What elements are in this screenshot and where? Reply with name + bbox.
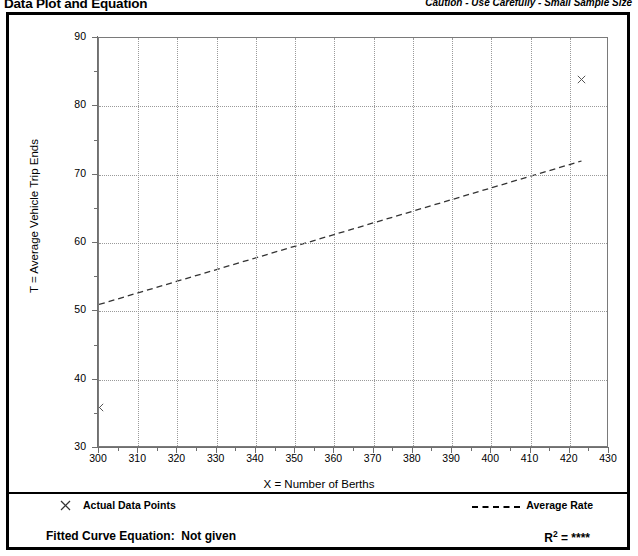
x-tick-label: 420 (549, 452, 589, 464)
x-tick-minor (275, 447, 276, 451)
x-tick-minor (588, 447, 589, 451)
y-tick-label: 80 (56, 98, 86, 110)
r2-exponent: 2 (553, 529, 558, 539)
x-tick-label: 380 (392, 452, 432, 464)
x-tick-label: 410 (510, 452, 550, 464)
y-tick-major (92, 310, 98, 311)
x-tick-minor (157, 447, 158, 451)
grid-line-horizontal (99, 311, 607, 312)
y-tick-major (92, 37, 98, 38)
equation-value: Not given (181, 529, 236, 543)
plot-inner (99, 38, 607, 446)
legend-label-points: Actual Data Points (83, 499, 176, 511)
legend-divider (6, 492, 630, 494)
r2-label: R (544, 531, 553, 545)
grid-line-vertical (177, 38, 178, 446)
grid-line-vertical (570, 38, 571, 446)
grid-line-vertical (256, 38, 257, 446)
x-marker-icon (60, 500, 71, 511)
x-tick-label: 370 (353, 452, 393, 464)
page-title: Data Plot and Equation (4, 0, 147, 11)
x-tick-label: 320 (156, 452, 196, 464)
x-tick-label: 300 (78, 452, 118, 464)
x-tick-minor (353, 447, 354, 451)
x-tick-label: 350 (274, 452, 314, 464)
figure-panel: Data Plot and Equation Caution - Use Car… (0, 0, 638, 556)
x-tick-minor (314, 447, 315, 451)
plot-area (98, 37, 608, 447)
y-tick-label: 50 (56, 303, 86, 315)
x-tick-minor (196, 447, 197, 451)
grid-line-vertical (452, 38, 453, 446)
grid-line-horizontal (99, 175, 607, 176)
legend-label-line: Average Rate (526, 499, 593, 511)
y-tick-major (92, 379, 98, 380)
dashed-line-icon (472, 506, 520, 508)
fitted-curve-equation: Fitted Curve Equation: Not given (46, 529, 236, 543)
grid-line-vertical (217, 38, 218, 446)
grid-line-horizontal (99, 106, 607, 107)
y-axis-title: T = Average Vehicle Trip Ends (28, 16, 40, 416)
y-tick-label: 70 (56, 167, 86, 179)
x-tick-minor (549, 447, 550, 451)
y-tick-label: 30 (56, 440, 86, 452)
y-tick-label: 90 (56, 30, 86, 42)
x-tick-label: 390 (431, 452, 471, 464)
grid-line-vertical (413, 38, 414, 446)
y-tick-major (92, 174, 98, 175)
data-point-x-icon (577, 75, 586, 84)
x-tick-minor (471, 447, 472, 451)
data-point-x-icon (99, 403, 104, 412)
y-tick-minor (94, 208, 98, 209)
x-tick-minor (392, 447, 393, 451)
r2-equals: = **** (561, 531, 590, 545)
y-tick-minor (94, 345, 98, 346)
grid-line-vertical (138, 38, 139, 446)
x-tick-label: 310 (117, 452, 157, 464)
equation-label: Fitted Curve Equation: (46, 529, 175, 543)
y-tick-minor (94, 71, 98, 72)
x-tick-minor (235, 447, 236, 451)
chart-legend: Actual Data Points Average Rate (0, 498, 638, 520)
y-tick-label: 40 (56, 372, 86, 384)
x-tick-label: 340 (235, 452, 275, 464)
y-tick-major (92, 105, 98, 106)
y-tick-major (92, 242, 98, 243)
grid-line-vertical (374, 38, 375, 446)
x-tick-minor (118, 447, 119, 451)
trend-line-segment (99, 161, 582, 305)
caution-note: Caution - Use Carefully - Small Sample S… (425, 0, 632, 8)
x-tick-label: 430 (588, 452, 628, 464)
x-tick-label: 360 (313, 452, 353, 464)
y-tick-minor (94, 140, 98, 141)
equation-row: Fitted Curve Equation: Not given R2 = **… (0, 528, 638, 552)
x-tick-minor (431, 447, 432, 451)
grid-line-horizontal (99, 380, 607, 381)
grid-line-vertical (334, 38, 335, 446)
y-tick-minor (94, 276, 98, 277)
grid-line-vertical (491, 38, 492, 446)
x-tick-minor (510, 447, 511, 451)
y-tick-minor (94, 413, 98, 414)
x-tick-label: 400 (470, 452, 510, 464)
y-tick-label: 60 (56, 235, 86, 247)
grid-line-vertical (531, 38, 532, 446)
y-tick-major (92, 447, 98, 448)
r-squared-value: R2 = **** (544, 529, 590, 545)
grid-line-vertical (295, 38, 296, 446)
x-axis-title: X = Number of Berths (0, 478, 638, 490)
grid-line-horizontal (99, 243, 607, 244)
x-tick-label: 330 (196, 452, 236, 464)
